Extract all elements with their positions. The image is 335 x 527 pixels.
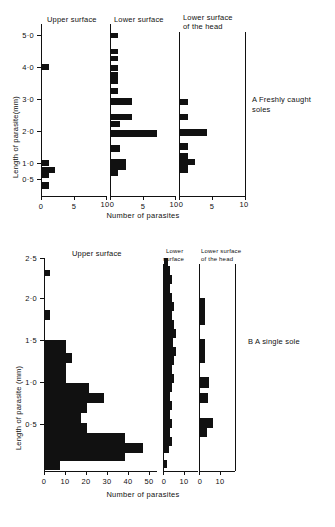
panel-a-subplot-upper-surface-title: Upper surface <box>47 16 97 25</box>
bar <box>180 114 188 120</box>
panel-b-upper-xtick-0: 0 <box>42 477 46 486</box>
panel-a-ytick-5: 5·0 <box>14 31 34 40</box>
bar <box>200 418 213 428</box>
panel-a-head-xtick-0: 0 <box>179 200 183 209</box>
panel-b-upper-xtickmark-30 <box>107 471 108 475</box>
panel-b-lower-xtickmark-0 <box>163 471 164 475</box>
bar <box>45 393 104 403</box>
bar <box>180 165 188 173</box>
panel-b-ytick-0-5: 0·5 <box>17 420 37 429</box>
panel-b-upper-xtick-30: 30 <box>103 477 112 486</box>
panel-b-upper-xtickmark-10 <box>65 471 66 475</box>
bar <box>180 129 207 136</box>
panel-a-upper-xtick-10: 10 <box>101 200 110 209</box>
bar <box>164 275 172 284</box>
panel-b: Length of parasite (mm) 2·5 2·0 1·5 1·0 … <box>0 232 335 527</box>
bar <box>164 338 173 347</box>
panel-b-head-right-border <box>235 264 236 471</box>
panel-b-caption: B A single sole <box>248 337 300 347</box>
panel-a-lower-xtick-10: 10 <box>170 200 179 209</box>
panel-b-head-xtick-10: 10 <box>216 477 225 486</box>
bar <box>164 320 174 329</box>
bar <box>45 461 60 470</box>
panel-b-head-xtickmark-10 <box>220 471 221 475</box>
figure-root: Length of parasite(mm) 5·0 4·0 3·0 2·0 1… <box>0 0 335 527</box>
bar <box>111 78 118 84</box>
bar <box>164 419 172 428</box>
bar <box>45 403 87 413</box>
bar <box>42 173 49 178</box>
panel-b-subplot-upper-surface-title: Upper surface <box>72 250 122 259</box>
panel-a-head-xtick-5: 5 <box>210 202 214 211</box>
panel-b-upper-xtick-40: 40 <box>124 477 133 486</box>
bar <box>45 340 66 353</box>
panel-a-ytick-1: 1·0 <box>14 159 34 168</box>
bar <box>200 320 205 325</box>
bar <box>45 443 143 453</box>
panel-b-ytick-1-5: 1·5 <box>17 336 37 345</box>
panel-b-upper-xtickmark-0 <box>44 471 45 475</box>
bar <box>45 315 50 320</box>
bar <box>164 311 172 320</box>
panel-b-head-xtick-0: 0 <box>198 477 202 486</box>
bar <box>111 33 118 38</box>
panel-a-x-axis-title: Number of parasites <box>106 211 179 220</box>
bar <box>164 365 172 374</box>
bar <box>45 363 66 383</box>
bar <box>164 392 170 401</box>
panel-b-ytick-2: 2·0 <box>17 294 37 303</box>
bar <box>45 423 87 433</box>
bar <box>164 460 167 468</box>
bar <box>164 347 176 356</box>
panel-a-subplot-lower-surface-title: Lower surface <box>114 16 164 25</box>
panel-b-lower-xtick-10: 10 <box>180 477 189 486</box>
bar <box>200 377 209 388</box>
panel-b-ytick-2-5: 2·5 <box>17 254 37 263</box>
panel-b-upper-xtickmark-20 <box>86 471 87 475</box>
bar <box>42 160 49 166</box>
panel-b-subplot-head-title-line1: Lower surface <box>201 248 241 255</box>
bar <box>164 383 172 392</box>
bar <box>111 114 132 120</box>
panel-b-upper-x-axis <box>44 471 157 472</box>
panel-b-upper-xtickmark-40 <box>128 471 129 475</box>
panel-a: Length of parasite(mm) 5·0 4·0 3·0 2·0 1… <box>0 0 335 232</box>
panel-b-subplot-head-title-line2: of the head <box>201 256 233 263</box>
panel-a-lower-xtick-5: 5 <box>141 202 145 211</box>
panel-b-head-xtickmark-0 <box>199 471 200 475</box>
bar <box>200 428 207 437</box>
panel-a-ytick-0-5: 0·5 <box>14 175 34 184</box>
bar <box>164 401 172 410</box>
panel-b-upper-xtick-10: 10 <box>61 477 70 486</box>
bar <box>164 266 170 275</box>
bar <box>164 437 172 446</box>
bar <box>42 64 49 70</box>
bar <box>164 428 170 437</box>
bar <box>164 410 170 419</box>
bar <box>164 284 170 293</box>
bar <box>180 143 188 150</box>
bar <box>45 353 72 363</box>
bar <box>164 293 172 302</box>
bar <box>111 49 118 54</box>
bar <box>164 302 174 311</box>
bar <box>164 258 168 266</box>
bar <box>45 433 125 443</box>
panel-a-lower-xtickmark-5 <box>143 196 144 200</box>
panel-a-upper-xtick-5: 5 <box>72 202 76 211</box>
bar <box>164 329 176 338</box>
bar <box>111 65 118 71</box>
panel-b-ytick-1: 1·0 <box>17 378 37 387</box>
bar <box>111 121 120 127</box>
panel-a-upper-xtickmark-0 <box>41 196 42 200</box>
bar <box>111 56 118 61</box>
bar <box>111 145 120 152</box>
bar <box>111 130 157 137</box>
panel-a-ytick-3: 3·0 <box>14 95 34 104</box>
bar <box>45 413 81 423</box>
panel-a-upper-xtick-0: 0 <box>39 202 43 211</box>
panel-a-lower-xtick-0: 0 <box>110 200 114 209</box>
bar <box>200 298 205 320</box>
panel-a-ytick-4: 4·0 <box>14 63 34 72</box>
panel-b-upper-xtickmark-50 <box>149 471 150 475</box>
